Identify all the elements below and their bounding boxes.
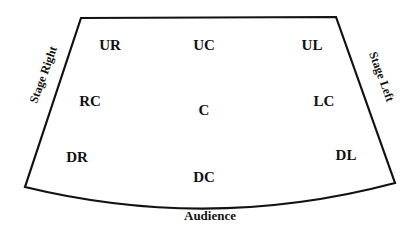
stage-diagram-canvas: UR UC UL RC C LC DR DC DL Stage Right St… [0,0,416,232]
area-right-center: RC [79,93,101,109]
stage-left-label: Stage Left [366,50,397,104]
area-upstage-center: UC [193,37,215,53]
area-downstage-right: DR [66,149,88,165]
audience-label: Audience [184,208,236,223]
area-left-center: LC [314,93,335,109]
area-center: C [199,102,210,118]
area-downstage-left: DL [336,147,357,163]
stage-diagram: UR UC UL RC C LC DR DC DL Stage Right St… [0,0,416,232]
area-upstage-left: UL [302,37,323,53]
area-upstage-right: UR [99,37,121,53]
area-downstage-center: DC [193,169,215,185]
